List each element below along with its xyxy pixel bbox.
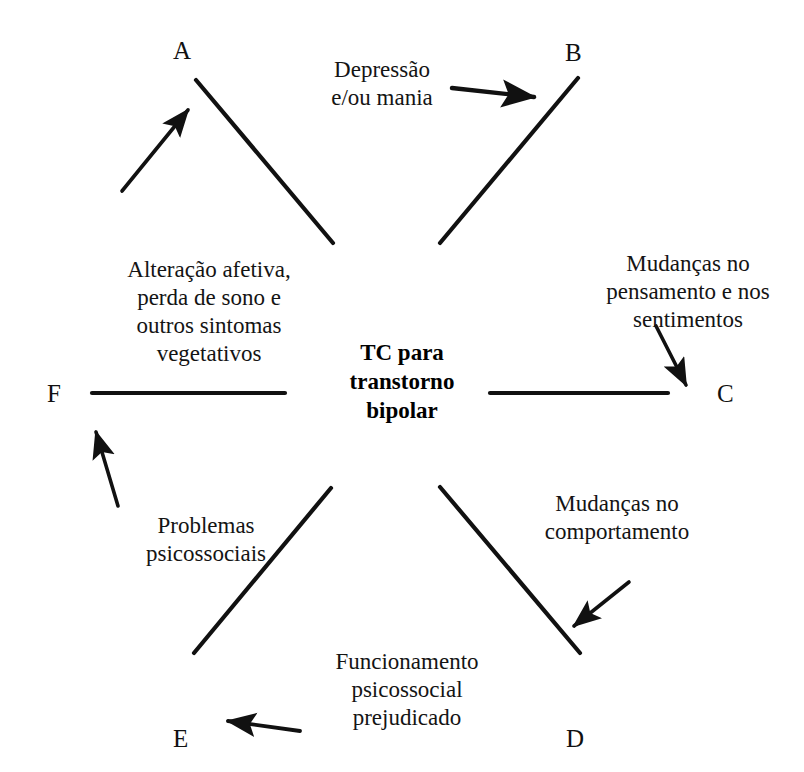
arrow-to-c (656, 326, 686, 385)
caption-problemas-line-1: Problemas (118, 512, 294, 540)
caption-funcionamento-line-2: psicossocial (300, 676, 514, 704)
node-letter-f: F (47, 381, 61, 406)
caption-funcionamento-psicossocial: Funcionamento psicossocial prejudicado (300, 648, 514, 732)
caption-pensamento-line-3: sentimentos (582, 306, 794, 334)
node-letter-d: D (566, 726, 584, 751)
arrow-to-b (452, 88, 534, 97)
caption-mudancas-pensamento: Mudanças no pensamento e nos sentimentos (582, 250, 794, 334)
caption-funcionamento-line-3: prejudicado (300, 704, 514, 732)
arrow-to-f (96, 432, 118, 506)
node-letter-a: A (173, 38, 191, 63)
caption-alteracao-afetiva: Alteração afetiva, perda de sono e outro… (104, 256, 314, 368)
arrow-to-e (228, 721, 300, 731)
node-letter-b: B (565, 40, 582, 65)
caption-alteracao-line-3: outros sintomas (104, 312, 314, 340)
caption-problemas-psicossociais: Problemas psicossociais (118, 512, 294, 568)
caption-comportamento-line-2: comportamento (508, 518, 726, 546)
node-letter-e: E (173, 726, 188, 751)
center-label-line-1: TC para (302, 339, 502, 368)
segment-b-to-center (440, 78, 578, 243)
center-label-line-2: transtorno (302, 368, 502, 397)
node-letter-c: C (717, 381, 734, 406)
bipolar-cycle-diagram: A B C D E F TC para transtorno bipolar D… (0, 0, 804, 772)
caption-alteracao-line-1: Alteração afetiva, (104, 256, 314, 284)
arrow-to-a (122, 110, 188, 191)
caption-pensamento-line-2: pensamento e nos (582, 278, 794, 306)
caption-alteracao-line-4: vegetativos (104, 340, 314, 368)
caption-problemas-line-2: psicossociais (118, 540, 294, 568)
caption-alteracao-line-2: perda de sono e (104, 284, 314, 312)
center-label-line-3: bipolar (302, 397, 502, 426)
caption-depressao-line-2: e/ou mania (312, 84, 452, 112)
arrow-to-d (574, 582, 629, 626)
caption-mudancas-comportamento: Mudanças no comportamento (508, 490, 726, 546)
caption-comportamento-line-1: Mudanças no (508, 490, 726, 518)
caption-pensamento-line-1: Mudanças no (582, 250, 794, 278)
caption-depressao-line-1: Depressão (312, 56, 452, 84)
caption-depressao-ou-mania: Depressão e/ou mania (312, 56, 452, 112)
center-label: TC para transtorno bipolar (302, 339, 502, 426)
caption-funcionamento-line-1: Funcionamento (300, 648, 514, 676)
